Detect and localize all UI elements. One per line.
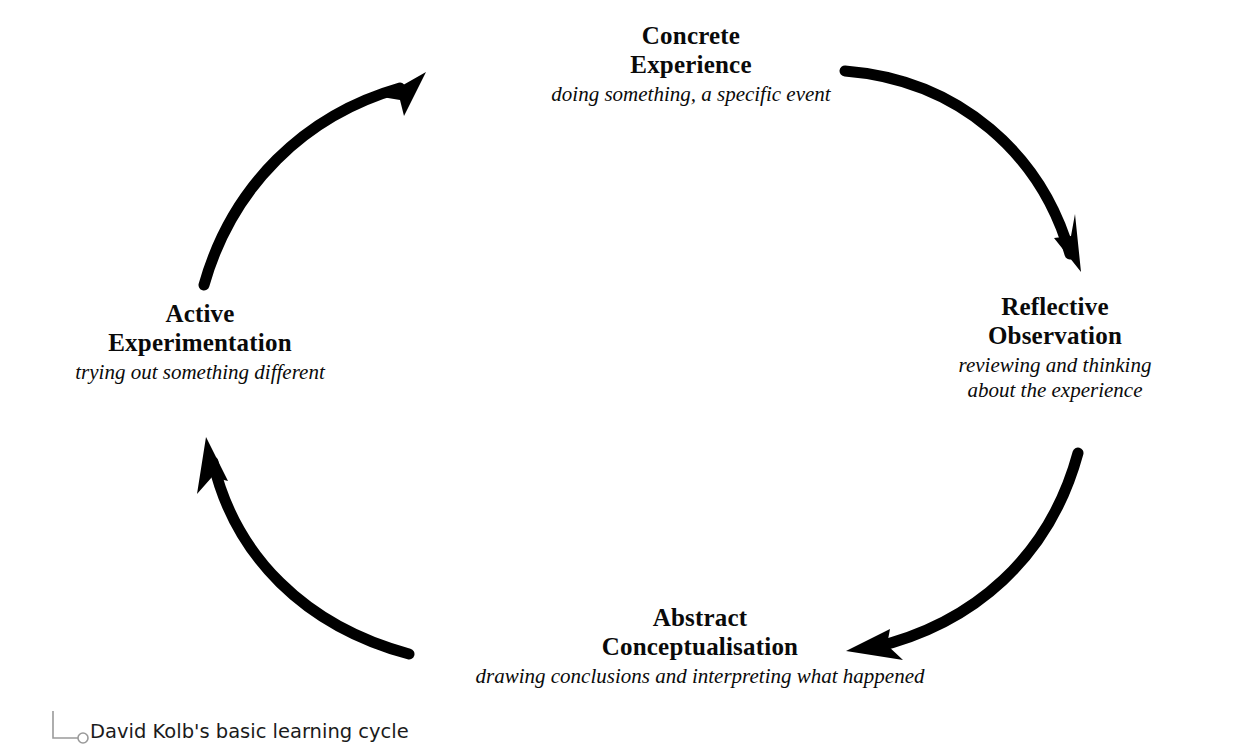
node-abstract-conceptualisation: Abstract Conceptualisation drawing concl… (370, 604, 1030, 689)
node-abstract-conceptualisation-title: Abstract Conceptualisation (370, 604, 1030, 661)
node-concrete-experience-subtitle: doing something, a specific event (496, 82, 886, 107)
node-concrete-experience-title: Concrete Experience (496, 22, 886, 79)
caption-text: David Kolb's basic learning cycle (90, 722, 409, 742)
node-concrete-experience: Concrete Experience doing something, a s… (496, 22, 886, 107)
node-active-experimentation-title: Active Experimentation (20, 300, 380, 357)
node-active-experimentation-subtitle: trying out something different (20, 360, 380, 385)
caption-block: David Kolb's basic learning cycle (28, 700, 448, 756)
node-abstract-conceptualisation-subtitle: drawing conclusions and interpreting wha… (370, 664, 1030, 689)
node-reflective-observation: Reflective Observation reviewing and thi… (905, 293, 1205, 403)
node-active-experimentation: Active Experimentation trying out someth… (20, 300, 380, 385)
node-reflective-observation-title: Reflective Observation (905, 293, 1205, 350)
node-reflective-observation-subtitle: reviewing and thinking about the experie… (905, 353, 1205, 403)
arrow-top-left (204, 72, 426, 285)
